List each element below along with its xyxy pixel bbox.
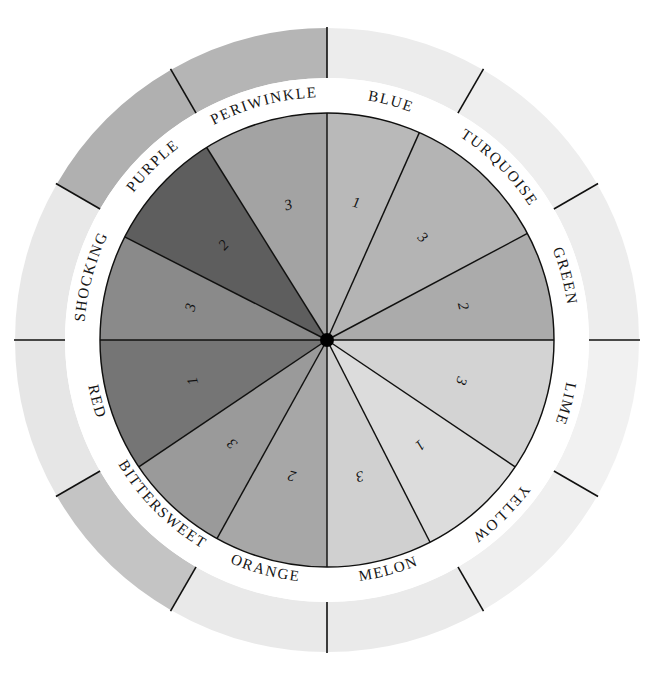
color-wheel-svg: BLUETURQUOISEGREENLIMEYELLOWMELONORANGEB… bbox=[0, 0, 654, 679]
center-hub-dot bbox=[320, 333, 334, 347]
color-wheel-figure: BLUETURQUOISEGREENLIMEYELLOWMELONORANGEB… bbox=[0, 0, 654, 679]
center-hub bbox=[320, 333, 334, 347]
